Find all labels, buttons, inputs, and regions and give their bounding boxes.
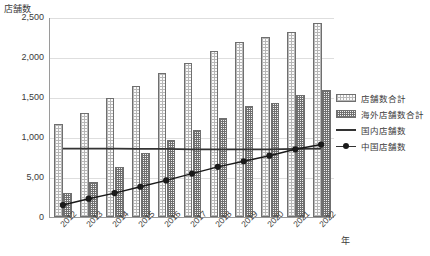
bar-total-2021 <box>287 32 296 217</box>
legend-item-lineonly[interactable]: 国内店舗数 <box>336 122 424 138</box>
bar-overseas-2017 <box>193 130 202 217</box>
legend-label: 店舗数合計 <box>361 92 406 104</box>
bar-overseas-2016 <box>167 140 176 217</box>
legend-item-linemark[interactable]: 中国店舗数 <box>336 138 424 154</box>
bar-overseas-2018 <box>219 118 228 217</box>
legend-label: 海外店舗数合計 <box>361 108 424 120</box>
legend-swatch-icon-lineonly <box>336 126 356 134</box>
bar-total-2016 <box>158 73 167 217</box>
y-tick-label: 0 <box>0 212 44 222</box>
bar-total-2018 <box>210 51 219 217</box>
bar-total-2022 <box>313 23 322 217</box>
bar-overseas-2015 <box>141 153 150 217</box>
legend-label: 中国店舗数 <box>361 140 406 152</box>
bar-total-2012 <box>54 124 63 217</box>
y-tick-label: 5,00 <box>0 172 44 182</box>
y-tick-label: 2,500 <box>0 12 44 22</box>
gridline <box>50 18 334 19</box>
bar-overseas-2019 <box>245 106 254 217</box>
legend-swatch-icon-overseas <box>336 110 356 118</box>
bar-overseas-2020 <box>271 103 280 217</box>
bar-total-2019 <box>235 42 244 217</box>
y-tick-label: 1,000 <box>0 132 44 142</box>
legend-item-overseas[interactable]: 海外店舗数合計 <box>336 106 424 122</box>
bar-overseas-2021 <box>296 95 305 217</box>
legend-swatch-icon-total <box>336 94 356 102</box>
legend-item-total[interactable]: 店舗数合計 <box>336 90 424 106</box>
y-tick-label: 1,500 <box>0 92 44 102</box>
bar-total-2013 <box>80 113 89 217</box>
x-axis-unit-label: 年 <box>341 234 350 247</box>
bar-total-2017 <box>184 63 193 217</box>
legend-swatch-icon-linemark <box>336 142 356 150</box>
bar-total-2020 <box>261 37 270 217</box>
bar-overseas-2022 <box>322 90 331 217</box>
y-tick-label: 2,000 <box>0 52 44 62</box>
bar-total-2015 <box>132 86 141 217</box>
bar-total-2014 <box>106 98 115 217</box>
chart-legend: 店舗数合計海外店舗数合計国内店舗数中国店舗数 <box>336 90 424 154</box>
plot-area <box>49 18 334 218</box>
legend-label: 国内店舗数 <box>361 124 406 136</box>
